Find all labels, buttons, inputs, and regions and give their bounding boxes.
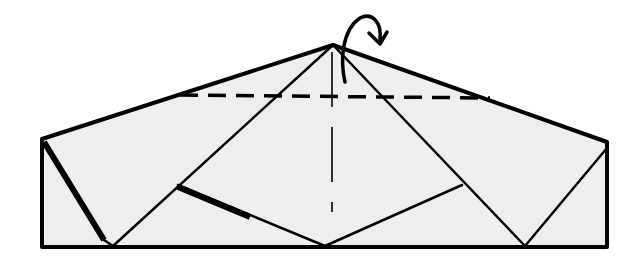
paper-shape: [42, 45, 607, 247]
origami-diagram: [0, 0, 639, 268]
